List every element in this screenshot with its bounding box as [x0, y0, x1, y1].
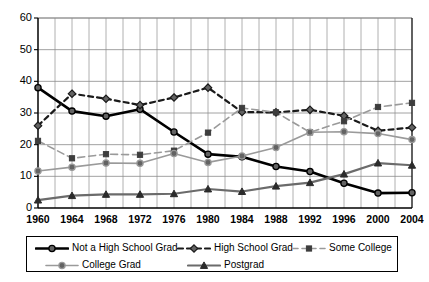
legend-item-not-a-high-school-grad[interactable]: Not a High School Grad	[35, 239, 178, 256]
x-tick-2004: 2004	[392, 214, 429, 225]
legend-swatch-some-college	[292, 241, 326, 254]
legend-swatch-college-grad	[45, 258, 79, 271]
y-tick-50: 50	[0, 44, 32, 55]
legend-swatch-not-a-high-school-grad	[35, 241, 69, 254]
y-tick-60: 60	[0, 12, 32, 23]
legend-label-postgrad: Postgrad	[224, 260, 264, 270]
y-tick-0: 0	[0, 202, 32, 213]
y-tick-30: 30	[0, 107, 32, 118]
legend-label-high-school-grad: High School Grad	[214, 243, 293, 253]
y-tick-10: 10	[0, 170, 32, 181]
legend-item-some-college[interactable]: Some College	[292, 239, 392, 256]
legend-item-postgrad[interactable]: Postgrad	[187, 256, 264, 273]
legend-label-college-grad: College Grad	[82, 260, 141, 270]
legend-label-some-college: Some College	[329, 243, 392, 253]
legend-item-college-grad[interactable]: College Grad	[45, 256, 141, 273]
chart-legend: Not a High School Grad High School Grad …	[26, 236, 398, 272]
legend-swatch-high-school-grad	[177, 241, 211, 254]
legend-swatch-postgrad	[187, 258, 221, 271]
y-tick-40: 40	[0, 75, 32, 86]
legend-item-high-school-grad[interactable]: High School Grad	[177, 239, 293, 256]
legend-label-not-a-high-school-grad: Not a High School Grad	[72, 243, 178, 253]
y-tick-20: 20	[0, 139, 32, 150]
